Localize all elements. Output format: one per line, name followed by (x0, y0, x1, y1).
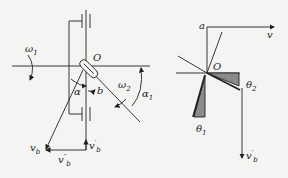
alpha-label: α (74, 87, 81, 97)
theta2-label: θ2 (246, 80, 257, 93)
v-label: v (267, 30, 273, 40)
right-vb-prime-label: v′b (246, 150, 258, 164)
omega1-arc (28, 55, 33, 80)
alpha1-arc (132, 68, 142, 106)
vb-prime-label: v′b (89, 140, 101, 154)
b-label: b (97, 86, 103, 96)
vb-vector (46, 70, 83, 149)
vb-label: vb (30, 143, 40, 156)
right-origin-label: O (213, 62, 221, 72)
origin-label: O (93, 53, 101, 63)
vb-double-prime-label: v″b (58, 154, 71, 168)
frame (69, 21, 82, 114)
omega2-label: ω2 (118, 80, 131, 93)
omega1-label: ω1 (25, 44, 38, 57)
a-label: a (199, 21, 205, 31)
theta1-label: θ1 (196, 124, 207, 137)
diagram-canvas: ω1 O α b ω2 α1 vb v″b v′b a v O θ2 θ1 v′… (0, 0, 288, 178)
alpha1-label: α1 (142, 89, 153, 102)
